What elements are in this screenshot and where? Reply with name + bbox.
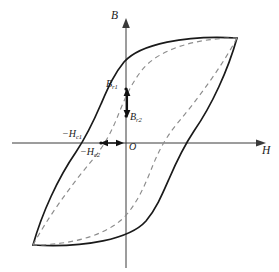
remanence-1-subscript: r1 bbox=[112, 83, 117, 90]
coercivity-1-subscript: c1 bbox=[76, 133, 82, 140]
coercivity-arrowhead-right-icon bbox=[116, 140, 124, 146]
h-axis-label: H bbox=[262, 145, 270, 157]
hysteresis-figure: B H O Br1 Br2 −Hc1 −Hc2 bbox=[0, 0, 279, 272]
coercivity-point-hc1 bbox=[99, 141, 102, 144]
coercivity-1-label: −Hc1 bbox=[62, 129, 82, 139]
axes-group bbox=[12, 18, 266, 268]
coercivity-2-label: −Hc2 bbox=[80, 147, 100, 157]
b-axis-label: B bbox=[111, 10, 118, 22]
origin-label: O bbox=[129, 142, 136, 152]
remanence-2-subscript: r2 bbox=[136, 116, 141, 123]
coercivity-2-subscript: c2 bbox=[94, 151, 100, 158]
hysteresis-plot-svg bbox=[0, 0, 279, 272]
remanence-point-br2 bbox=[125, 115, 128, 118]
remanence-1-label: Br1 bbox=[106, 79, 118, 89]
b-axis-arrowhead-icon bbox=[122, 18, 130, 28]
remanence-point-br1 bbox=[124, 87, 127, 90]
remanence-2-label: Br2 bbox=[130, 112, 142, 122]
